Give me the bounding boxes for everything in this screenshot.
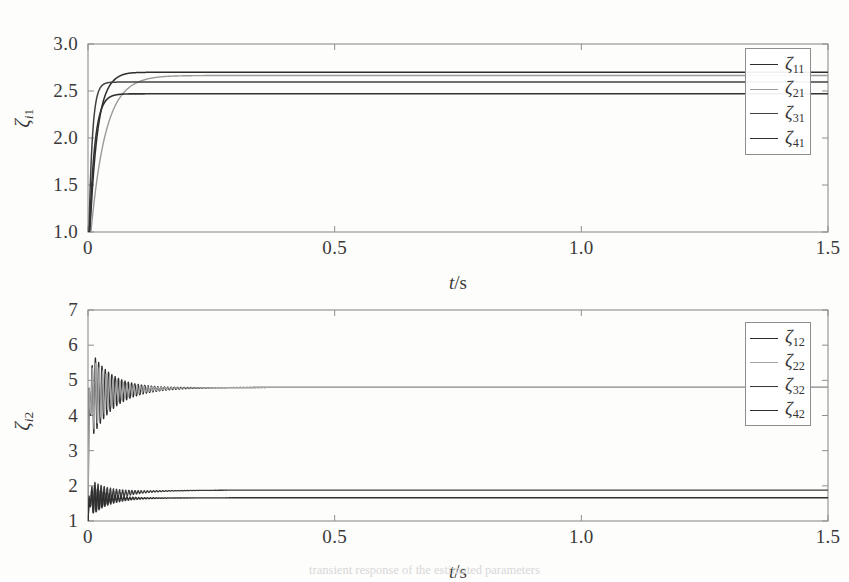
y-tick-label: 5 xyxy=(0,369,78,391)
y-tick-label: 3 xyxy=(0,440,78,462)
legend-series-label: ζ12 xyxy=(785,327,805,349)
legend-line-swatch xyxy=(750,113,778,114)
legend-line-swatch xyxy=(750,410,778,411)
legend-series-label: ζ32 xyxy=(785,375,805,397)
y-tick-label: 7 xyxy=(0,299,78,321)
legend-series-label: ζ31 xyxy=(785,103,805,125)
legend-line-swatch xyxy=(750,362,778,363)
legend-series-label: ζ41 xyxy=(785,128,805,150)
figure-caption: transient response of the estimated para… xyxy=(0,563,849,578)
legend-line-swatch xyxy=(750,89,778,90)
legend-line-swatch xyxy=(750,138,778,139)
legend-series-label: ζ22 xyxy=(785,351,805,373)
legend-lower[interactable]: ζ12ζ22ζ32ζ42 xyxy=(745,322,811,426)
x-tick-label: 0.5 xyxy=(322,526,347,548)
x-tick-label: 1.5 xyxy=(816,237,841,259)
legend-row[interactable]: ζ21 xyxy=(750,78,805,101)
x-tick-label: 0.5 xyxy=(322,237,347,259)
x-tick-label: 1.0 xyxy=(569,237,594,259)
y-tick-label: 3.0 xyxy=(0,33,78,55)
y-tick-label: 6 xyxy=(0,334,78,356)
legend-row[interactable]: ζ22 xyxy=(750,351,805,374)
legend-series-label: ζ42 xyxy=(785,399,805,421)
y-tick-label: 2 xyxy=(0,475,78,497)
y-axis-title-upper: ζi1 xyxy=(10,109,37,128)
y-tick-label: 1.0 xyxy=(0,221,78,243)
x-tick-label: 0 xyxy=(83,237,93,259)
chart-panel-lower: 123456700.51.01.5 ζi2 t/s ζ12ζ22ζ32ζ42 xyxy=(0,290,849,575)
legend-series-label: ζ11 xyxy=(785,54,804,76)
legend-series-label: ζ21 xyxy=(785,78,805,100)
y-tick-label: 1.5 xyxy=(0,174,78,196)
y-tick-label: 2.5 xyxy=(0,80,78,102)
legend-row[interactable]: ζ31 xyxy=(750,102,805,125)
legend-row[interactable]: ζ32 xyxy=(750,375,805,398)
legend-line-swatch xyxy=(750,338,778,339)
chart-panel-upper: 1.01.52.02.53.000.51.01.5 ζi1 t/s ζ11ζ21… xyxy=(0,0,849,290)
legend-row[interactable]: ζ12 xyxy=(750,327,805,350)
legend-line-swatch xyxy=(750,386,778,387)
plot-area-lower xyxy=(0,290,849,575)
x-tick-label: 0 xyxy=(83,526,93,548)
legend-upper[interactable]: ζ11ζ21ζ31ζ41 xyxy=(745,48,811,155)
legend-row[interactable]: ζ11 xyxy=(750,53,805,76)
legend-line-swatch xyxy=(750,64,778,65)
y-tick-label: 2.0 xyxy=(0,127,78,149)
y-axis-title-lower: ζi2 xyxy=(10,412,37,431)
legend-row[interactable]: ζ42 xyxy=(750,399,805,422)
x-tick-label: 1.0 xyxy=(569,526,594,548)
legend-row[interactable]: ζ41 xyxy=(750,127,805,150)
plot-area-upper xyxy=(0,0,849,290)
x-tick-label: 1.5 xyxy=(816,526,841,548)
y-tick-label: 1 xyxy=(0,510,78,532)
